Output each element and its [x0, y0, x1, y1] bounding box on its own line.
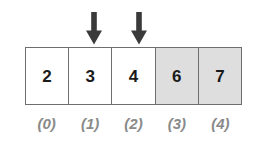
array-cell-value: 4 [129, 68, 138, 85]
down-arrow-icon [85, 12, 103, 45]
array-index-label-1: (1) [68, 110, 111, 136]
array-index-label-3: (3) [155, 110, 198, 136]
array-cell-2: 4 [112, 48, 155, 104]
array-index-label-4: (4) [199, 110, 242, 136]
array-cell-3: 6 [156, 48, 199, 104]
down-arrow-icon [130, 12, 148, 45]
array-index-label-0: (0) [25, 110, 68, 136]
array-cell-0: 2 [26, 48, 69, 104]
array-index-row: (0) (1) (2) (3) (4) [25, 110, 242, 136]
array-cell-value: 7 [215, 68, 224, 85]
pointer-arrow-2 [130, 12, 148, 45]
array-cell-value: 2 [42, 68, 51, 85]
array-cell-value: 3 [86, 68, 95, 85]
array-index-label-2: (2) [112, 110, 155, 136]
pointer-arrow-layer [25, 12, 242, 46]
array-cell-value: 6 [172, 68, 181, 85]
array-cell-4: 7 [199, 48, 241, 104]
array-box: 2 3 4 6 7 [25, 47, 242, 105]
pointer-arrow-1 [85, 12, 103, 45]
array-diagram: 2 3 4 6 7 (0) (1) (2) (3) (4) [0, 0, 257, 151]
array-cell-1: 3 [69, 48, 112, 104]
